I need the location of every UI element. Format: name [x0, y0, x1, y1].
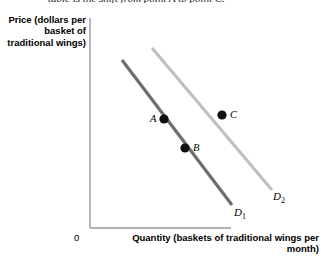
demand-curve-d1	[122, 60, 232, 205]
data-point-b	[180, 143, 189, 152]
point-label-c: C	[230, 109, 237, 120]
demand-curve-diagram: table is the shift from point A to point…	[0, 0, 321, 258]
curve-label-d2-subscript: 2	[281, 196, 285, 205]
origin-label: 0	[74, 232, 79, 243]
curve-label-d1: D1	[234, 206, 246, 221]
point-label-a: A	[150, 113, 156, 124]
y-axis-label: Price (dollars per basket of traditional…	[0, 14, 86, 48]
curve-label-d1-subscript: 1	[242, 212, 246, 221]
curve-label-d1-letter: D	[234, 206, 242, 218]
demand-curve-d2	[152, 48, 272, 190]
curve-label-d2-letter: D	[273, 190, 281, 202]
data-point-a	[159, 114, 168, 123]
point-label-b: B	[193, 142, 199, 153]
curve-label-d2: D2	[273, 190, 285, 205]
x-axis-label: Quantity (baskets of traditional wings p…	[131, 232, 319, 255]
data-point-c	[217, 110, 226, 119]
